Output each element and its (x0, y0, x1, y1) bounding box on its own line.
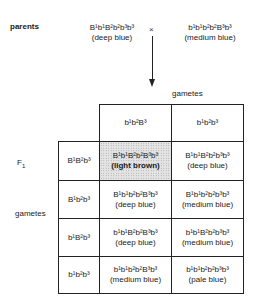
offspring-genotype: b¹b¹B²b²b³b³ (186, 228, 230, 238)
offspring-phenotype: (deep blue) (115, 238, 155, 248)
offspring-phenotype: (pale blue) (189, 275, 227, 285)
offspring-genotype: B¹b¹b²b²b³b³ (186, 190, 230, 200)
offspring-phenotype: (medium blue) (110, 275, 161, 285)
grid-line (58, 141, 244, 142)
offspring-genotype: b¹b¹b²b²B³b³ (114, 265, 158, 275)
offspring-phenotype: (medium blue) (182, 238, 233, 248)
offspring-phenotype: (deep blue) (115, 200, 155, 210)
offspring-cell-r3-c1: b¹b¹B²b²B³b³ (deep blue) (100, 219, 171, 256)
offspring-cell-r1-c1: B¹b¹B²b²B³b³ (light brown) (100, 142, 171, 180)
offspring-cell-r3-c2: b¹b¹B²b²b³b³ (medium blue) (172, 219, 243, 256)
row-gamete-1: B¹B²b³ (59, 142, 99, 180)
gametes-column-label: gametes (172, 89, 203, 98)
parent2-genotype: b¹b¹b²b²B³b³ (165, 23, 255, 33)
offspring-cell-r2-c2: B¹b¹b²b²b³b³ (medium blue) (172, 181, 243, 218)
f1-label: F1 (17, 158, 25, 169)
grid-line (243, 104, 244, 294)
parent2-phenotype: (medium blue) (165, 33, 255, 43)
column-gamete-2: b¹b²b³ (172, 105, 243, 141)
row-gamete-label: B¹B²b³ (67, 156, 90, 166)
row-gamete-label: B¹b²b³ (68, 195, 90, 205)
down-arrow-shaft (152, 36, 153, 80)
grid-line (58, 180, 244, 181)
grid-line (58, 293, 244, 294)
row-gamete-label: b¹B²b³ (68, 233, 90, 243)
offspring-genotype: B¹b¹b²b²B³b³ (113, 190, 157, 200)
row-gamete-2: B¹b²b³ (59, 181, 99, 218)
grid-line (58, 141, 59, 294)
column-gamete-label: b¹b²B³ (124, 118, 146, 128)
column-gamete-1: b¹b²B³ (100, 105, 171, 141)
cross-symbol: × (149, 25, 154, 34)
offspring-phenotype: (light brown) (111, 161, 159, 171)
gametes-row-label: gametes (15, 209, 46, 218)
offspring-cell-r2-c1: B¹b¹b²b²B³b³ (deep blue) (100, 181, 171, 218)
offspring-genotype: B¹b¹B²b²b³b³ (185, 151, 229, 161)
parent1-phenotype: (deep blue) (70, 33, 154, 43)
grid-line (58, 256, 244, 257)
parent1: B¹b¹B²b²b³b³ (deep blue) (70, 23, 154, 43)
parent2: b¹b¹b²b²B³b³ (medium blue) (165, 23, 255, 43)
offspring-genotype: b¹b¹b²b²b³b³ (186, 265, 229, 275)
row-gamete-4: b¹b²b³ (59, 257, 99, 293)
parent1-genotype: B¹b¹B²b²b³b³ (70, 23, 154, 33)
down-arrow-icon (149, 79, 155, 87)
offspring-phenotype: (medium blue) (182, 200, 233, 210)
offspring-cell-r4-c1: b¹b¹b²b²B³b³ (medium blue) (100, 257, 171, 293)
row-gamete-3: b¹B²b³ (59, 219, 99, 256)
offspring-cell-r4-c2: b¹b¹b²b²b³b³ (pale blue) (172, 257, 243, 293)
parents-label: parents (10, 22, 39, 31)
offspring-genotype: b¹b¹B²b²B³b³ (113, 228, 157, 238)
column-gamete-label: b¹b²b³ (197, 118, 218, 128)
offspring-cell-r1-c2: B¹b¹B²b²b³b³ (deep blue) (172, 142, 243, 180)
grid-line (99, 104, 100, 294)
offspring-phenotype: (deep blue) (187, 161, 227, 171)
grid-line (171, 104, 172, 294)
offspring-genotype: B¹b¹B²b²B³b³ (113, 151, 158, 161)
grid-line (58, 218, 244, 219)
row-gamete-label: b¹b²b³ (68, 270, 89, 280)
